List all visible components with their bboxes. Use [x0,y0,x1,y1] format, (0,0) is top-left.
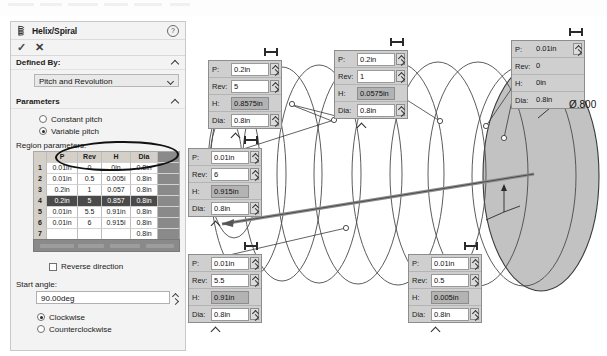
cell-pitch[interactable]: 0.2in [47,185,78,196]
table-row[interactable]: 30.2in10.0570.8in [34,185,179,196]
param-value-input[interactable]: 5 [231,80,269,93]
cell-rev[interactable]: 5 [78,196,102,207]
param-value-input[interactable]: 0in [534,77,572,90]
counterclockwise-radio[interactable] [37,325,45,333]
chevron-up-icon[interactable] [211,327,220,333]
cell-rev[interactable]: 5.5 [78,207,102,218]
param-value-input[interactable]: 0.0575in [357,87,395,100]
param-value-input[interactable]: 0.01in [534,43,572,56]
pin-icon[interactable] [390,38,404,46]
parameters-section-header[interactable]: Parameters [11,94,185,109]
table-row[interactable]: 10.01in00in0.8in [34,163,179,174]
pin-icon[interactable] [264,48,278,56]
param-stepper[interactable] [396,70,405,82]
param-stepper[interactable] [250,274,259,286]
param-value-input[interactable]: 0.8in [357,104,395,117]
cell-dia[interactable]: 0.8in [131,174,158,185]
param-value-input[interactable]: 0.91in [211,291,249,304]
help-icon[interactable]: ? [167,25,179,37]
defined-by-combobox[interactable]: Pitch and Revolution [34,74,179,87]
param-stepper[interactable] [250,257,259,269]
param-stepper[interactable] [250,308,259,320]
callout-rev05[interactable]: P:0.01inRev:0.5H:0.005inDia:0.8in [408,254,482,323]
param-value-input[interactable]: 0.8in [534,94,572,107]
start-angle-stepper[interactable] [171,291,181,306]
cell-height[interactable]: 0.91in [102,207,131,218]
chevron-up-icon[interactable] [357,123,366,129]
param-stepper[interactable] [470,274,479,286]
cell-rev[interactable]: 1 [78,185,102,196]
param-value-input[interactable]: 0.8in [211,202,249,215]
param-value-input[interactable]: 1 [357,70,395,83]
param-stepper[interactable] [396,104,405,116]
accept-button[interactable]: ✓ [17,42,26,53]
param-value-input[interactable]: 6 [211,168,249,181]
callout-rev1[interactable]: P:0.2inRev:1H:0.0575inDia:0.8in [334,50,408,119]
cell-pitch[interactable]: 0.01in [47,218,78,229]
param-value-input[interactable]: 0.2in [357,53,395,66]
cell-index[interactable]: 5 [34,207,47,218]
cell-pitch[interactable]: 0.01in [47,163,78,174]
pin-icon[interactable] [569,28,583,36]
chevron-up-icon[interactable] [211,221,220,227]
cell-index[interactable]: 1 [34,163,47,174]
cell-rev[interactable]: 6 [78,218,102,229]
cell-index[interactable]: 4 [34,196,47,207]
param-value-input[interactable]: 0.01in [431,257,469,270]
cell-rev[interactable]: 0.5 [78,174,102,185]
cell-height[interactable]: 0.057 [102,185,131,196]
cell-dia[interactable]: 0.8in [131,163,158,174]
cell-dia[interactable]: 0.8in [131,185,158,196]
param-stepper[interactable] [270,114,279,126]
callout-rev55[interactable]: P:0.01inRev:5.5H:0.91inDia:0.8in [188,254,262,323]
param-value-input[interactable]: 0.005in [431,291,469,304]
stepper-down-icon[interactable] [172,299,179,304]
param-value-input[interactable]: 0.2in [231,63,269,76]
param-value-input[interactable]: 0.8in [211,308,249,321]
clockwise-radio[interactable] [37,313,45,321]
param-stepper[interactable] [470,308,479,320]
region-parameters-table[interactable]: P Rev H Dia 10.01in00in0.8in20.01in0.50.… [33,151,180,241]
pin-icon[interactable] [244,136,258,144]
param-stepper[interactable] [250,168,259,180]
param-value-input[interactable]: 0.915in [211,185,249,198]
param-stepper[interactable] [396,53,405,65]
cell-height[interactable]: 0.857 [102,196,131,207]
param-value-input[interactable]: 0.8575in [231,97,269,110]
cell-height[interactable]: 0.005i [102,174,131,185]
cancel-button[interactable]: ✕ [35,42,44,53]
param-stepper[interactable] [270,80,279,92]
cell-index[interactable]: 3 [34,185,47,196]
param-value-input[interactable]: 5.5 [211,274,249,287]
cell-index[interactable]: 2 [34,174,47,185]
table-row[interactable]: 60.01in60.915i0.8in [34,218,179,229]
pin-icon[interactable] [464,242,478,250]
cell-pitch[interactable]: 0.2in [47,196,78,207]
param-value-input[interactable]: 0.5 [431,274,469,287]
cell-pitch[interactable]: 0.01in [47,174,78,185]
constant-pitch-radio[interactable] [39,115,47,123]
callout-rev6[interactable]: P:0.01inRev:6H:0.915inDia:0.8in [188,148,262,217]
param-stepper[interactable] [250,202,259,214]
table-row[interactable]: 50.01in5.50.91in0.8in [34,207,179,218]
table-row[interactable]: 40.2in50.8570.8in [34,196,179,207]
cell-index[interactable]: 6 [34,218,47,229]
param-value-input[interactable]: 0 [534,60,572,73]
param-value-input[interactable]: 0.8in [431,308,469,321]
param-value-input[interactable]: 0.01in [211,151,249,164]
cell-pitch[interactable]: 0.01in [47,207,78,218]
param-stepper[interactable] [470,257,479,269]
param-value-input[interactable]: 0.01in [211,257,249,270]
graphics-viewport[interactable]: P:0.2inRev:5H:0.8575inDia:0.8inP:0.2inRe… [186,16,607,356]
start-angle-input[interactable]: 90.00deg [36,291,170,304]
variable-pitch-radio[interactable] [39,127,47,135]
cell-rev[interactable]: 0 [78,163,102,174]
cell-height[interactable]: 0.915i [102,218,131,229]
param-value-input[interactable]: 0.8in [231,114,269,127]
param-stepper[interactable] [250,151,259,163]
stepper-up-icon[interactable] [172,292,179,297]
cell-dia[interactable]: 0.8in [131,196,158,207]
chevron-up-icon[interactable] [431,327,440,333]
diameter-dimension-label[interactable]: Ø.800 [569,99,596,110]
cell-dia[interactable]: 0.8in [131,207,158,218]
